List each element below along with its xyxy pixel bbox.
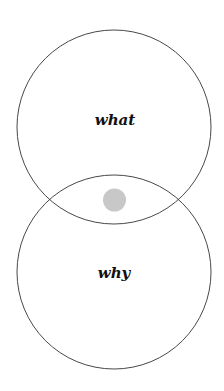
intersection-dot — [103, 189, 126, 212]
venn-diagram — [0, 0, 224, 391]
label-what: what — [95, 111, 135, 129]
label-why: why — [98, 264, 131, 282]
